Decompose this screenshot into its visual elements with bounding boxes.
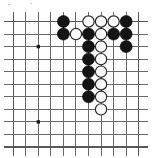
white-stone <box>108 16 119 27</box>
black-stone <box>83 78 95 90</box>
white-stone <box>83 16 94 27</box>
white-stone <box>95 79 106 90</box>
black-stone <box>57 28 69 40</box>
black-stone <box>83 66 95 78</box>
white-stone <box>70 28 81 39</box>
black-stone <box>57 16 69 28</box>
print-artifacts <box>8 3 32 5</box>
star-point <box>37 45 40 48</box>
black-stone <box>83 28 95 40</box>
black-stone <box>83 91 95 103</box>
go-board-diagram <box>0 0 154 158</box>
white-stone <box>95 91 106 102</box>
white-stone <box>95 41 106 52</box>
stones-layer <box>57 16 132 116</box>
black-stone <box>120 16 132 28</box>
black-stone <box>108 28 120 40</box>
white-stone <box>95 28 106 39</box>
black-stone <box>120 41 132 53</box>
go-board <box>0 0 154 158</box>
white-stone <box>95 54 106 65</box>
white-stone <box>95 16 106 27</box>
star-point <box>37 120 40 123</box>
black-stone <box>120 28 132 40</box>
black-stone <box>83 53 95 65</box>
white-stone <box>95 104 106 115</box>
black-stone <box>83 41 95 53</box>
white-stone <box>95 66 106 77</box>
